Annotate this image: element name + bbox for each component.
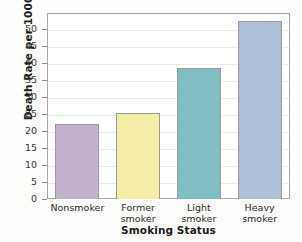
y-axis-tick-label: 10 — [11, 160, 37, 170]
y-axis-tick — [42, 165, 47, 166]
y-axis-tick-label: 20 — [11, 126, 37, 136]
y-axis-tick — [42, 148, 47, 149]
x-axis-category-label: Nonsmoker — [47, 202, 108, 213]
x-axis-category-label-line: Former — [108, 202, 169, 213]
y-axis-tick-label: 40 — [11, 58, 37, 68]
y-axis-tick-label: 45 — [11, 41, 37, 51]
bar-chart-figure: Death Rate per 1000 05101520253035404550… — [0, 0, 302, 242]
bar — [55, 124, 99, 199]
x-axis-title: Smoking Status — [47, 224, 290, 236]
y-axis-tick — [42, 114, 47, 115]
y-axis-tick-label: 0 — [11, 194, 37, 204]
y-axis-tick-label: 50 — [11, 24, 37, 34]
y-axis-tick-label: 5 — [11, 177, 37, 187]
x-axis-category-label-line: Nonsmoker — [47, 202, 108, 213]
x-axis-category-label-line: Heavy — [229, 202, 290, 213]
y-axis-tick — [42, 29, 47, 30]
y-axis-tick — [42, 97, 47, 98]
y-axis-tick-label: 35 — [11, 75, 37, 85]
x-axis-category-label-line: smoker — [108, 213, 169, 224]
x-axis-category-label: Lightsmoker — [169, 202, 230, 224]
x-axis-category-label: Formersmoker — [108, 202, 169, 224]
x-axis-category-label-line: smoker — [229, 213, 290, 224]
y-axis-tick — [42, 46, 47, 47]
y-axis-tick — [42, 63, 47, 64]
x-axis-category-label-line: smoker — [169, 213, 230, 224]
x-axis-category-label-line: Light — [169, 202, 230, 213]
y-axis-tick — [42, 131, 47, 132]
y-axis-tick — [42, 182, 47, 183]
y-axis-tick-label: 25 — [11, 109, 37, 119]
y-axis-tick-label: 15 — [11, 143, 37, 153]
bar — [238, 21, 282, 199]
y-axis-tick — [42, 199, 47, 200]
y-axis-tick — [42, 80, 47, 81]
x-axis-category-label: Heavysmoker — [229, 202, 290, 224]
bar — [177, 68, 221, 199]
bar — [116, 113, 160, 199]
y-axis-tick-label: 30 — [11, 92, 37, 102]
